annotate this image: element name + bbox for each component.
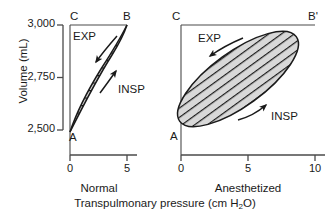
- y-tick-label-2500: 2,500: [7, 123, 55, 134]
- right-x-tick-label-10: 10: [303, 163, 327, 174]
- left-x-axis: [70, 155, 137, 161]
- right-panel-title: Anesthetized: [200, 183, 296, 195]
- left-panel-title: Normal: [60, 183, 138, 195]
- x-axis-title: Transpulmonary pressure (cm H2O): [0, 198, 330, 210]
- right-insp-label: INSP: [271, 111, 298, 123]
- left-insp-arrow: [100, 71, 116, 93]
- right-point-label-a: A: [170, 131, 178, 143]
- right-exp-label: EXP: [198, 33, 221, 45]
- left-insp-label: INSP: [118, 84, 145, 96]
- left-x-tick-label-5: 5: [115, 163, 139, 174]
- y-tick-label-3000: 3,000: [7, 18, 55, 29]
- pressure-volume-figure: Volume (mL) 3,000 2,750 2,500 C B A EXP …: [0, 0, 330, 215]
- y-tick-label-2750: 2,750: [7, 71, 55, 82]
- right-x-tick-label-5: 5: [236, 163, 260, 174]
- right-x-axis: [181, 155, 325, 161]
- left-y-axis: [57, 25, 63, 130]
- right-hysteresis-loop-fill: [164, 15, 312, 143]
- left-point-label-c: C: [70, 11, 78, 23]
- x-axis-title-subscript: 2: [239, 202, 243, 211]
- left-point-label-b: B: [123, 11, 131, 23]
- right-point-label-b-prime: B': [308, 11, 318, 23]
- left-x-tick-label-0: 0: [58, 163, 82, 174]
- x-axis-title-tail: O): [243, 197, 256, 209]
- left-exp-label: EXP: [73, 31, 96, 43]
- right-point-label-c: C: [172, 11, 180, 23]
- right-x-tick-label-0: 0: [169, 163, 193, 174]
- x-axis-title-main: Transpulmonary pressure (cm H: [74, 197, 238, 209]
- left-point-label-a: A: [69, 132, 77, 144]
